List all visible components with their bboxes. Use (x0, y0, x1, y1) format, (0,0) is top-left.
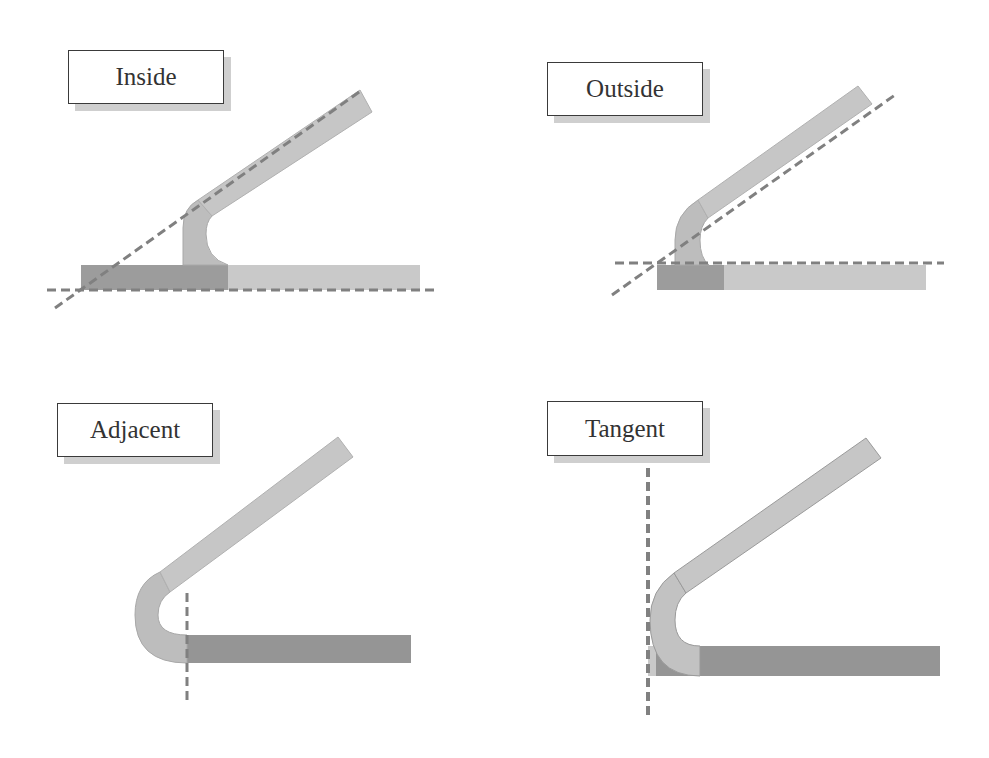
outside-flange-dark (657, 265, 724, 290)
label-tangent-text: Tangent (585, 415, 665, 443)
label-outside-text: Outside (586, 75, 664, 103)
tangent-arm (674, 438, 881, 593)
label-tangent: Tangent (547, 401, 703, 456)
panel-inside (47, 90, 436, 308)
inside-arm (198, 90, 372, 216)
label-inside: Inside (68, 50, 224, 104)
panel-adjacent (135, 437, 411, 702)
adjacent-flange-dark (187, 635, 411, 663)
panel-outside (612, 86, 944, 295)
label-outside: Outside (547, 62, 703, 116)
adjacent-arm (160, 437, 353, 592)
outside-flange-light (724, 265, 926, 290)
inside-flange-dark (81, 265, 228, 290)
label-inside-text: Inside (115, 63, 176, 91)
bend-reference-diagram (0, 0, 989, 758)
label-adjacent: Adjacent (57, 403, 213, 457)
outside-arm (698, 86, 872, 218)
panel-tangent (648, 438, 940, 718)
inside-flange-light (228, 265, 420, 290)
label-adjacent-text: Adjacent (90, 416, 180, 444)
